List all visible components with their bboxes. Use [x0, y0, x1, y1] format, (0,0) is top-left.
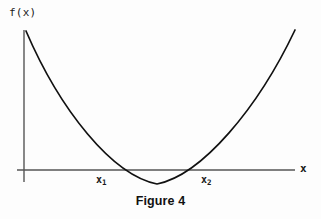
parabola-curve — [26, 30, 295, 184]
y-axis-label: f(x) — [9, 7, 36, 18]
figure-caption: Figure 4 — [0, 194, 321, 208]
x-axis-label: x — [300, 163, 307, 174]
quadratic-plot — [0, 0, 321, 219]
figure-container: f(x) x x1 x2 Figure 4 — [0, 0, 321, 219]
root-label-x1: x1 — [96, 175, 107, 185]
root-label-x2: x2 — [201, 175, 212, 185]
root-label-x2-subscript: 2 — [207, 178, 212, 187]
root-label-x1-subscript: 1 — [102, 178, 107, 187]
